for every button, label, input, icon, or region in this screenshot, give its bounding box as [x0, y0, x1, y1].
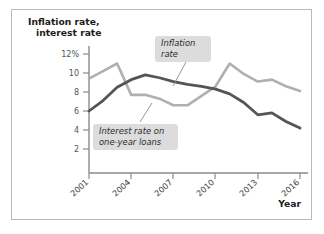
x-tick-label-2013: 2013	[237, 177, 259, 198]
y-tick-label-4: 4	[74, 126, 79, 135]
chart-figure: Inflation rate, interest rate 12% 10 8 6…	[0, 0, 324, 234]
x-axis-title: Year	[277, 198, 301, 209]
x-tick-label-2007: 2007	[152, 177, 174, 198]
interest-callout-line2: one-year loans	[99, 137, 162, 147]
x-tick-label-2001: 2001	[68, 177, 90, 198]
y-tick-label-2: 2	[74, 145, 79, 154]
x-tick-label-2016: 2016	[279, 177, 301, 198]
line-chart: Inflation rate, interest rate 12% 10 8 6…	[0, 0, 324, 234]
inflation-rate-callout: Inflation rate	[155, 36, 211, 62]
y-tick-label-6: 6	[74, 107, 79, 116]
interest-callout-leader	[140, 103, 152, 122]
y-tick-label-10: 10	[69, 69, 79, 78]
y-axis-ticks: 12% 10 8 6 4 2	[61, 50, 89, 154]
x-axis-ticks: 2001 2004 2007 2010 2013 2016	[68, 173, 301, 198]
y-tick-label-12: 12%	[61, 50, 79, 59]
inflation-callout-line2: rate	[161, 49, 178, 59]
inflation-callout-line1: Inflation	[161, 38, 195, 48]
y-axis-title-line2: interest rate	[36, 27, 102, 38]
x-tick-label-2004: 2004	[110, 177, 132, 198]
interest-rate-callout: Interest rate on one-year loans	[93, 124, 178, 150]
y-tick-label-8: 8	[74, 88, 79, 97]
y-axis-title-line1: Inflation rate,	[28, 16, 99, 27]
x-tick-label-2010: 2010	[194, 177, 216, 198]
interest-callout-line1: Interest rate on	[99, 126, 164, 136]
